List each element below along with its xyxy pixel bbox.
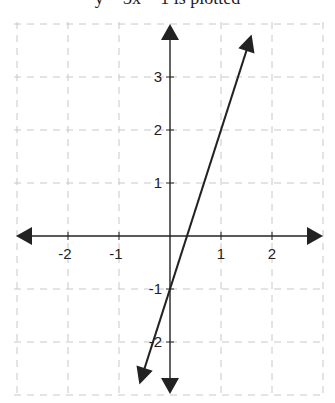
y-tick-label: 1: [154, 174, 162, 191]
line-down-arrow-icon: [136, 366, 152, 385]
y-tick-label: -1: [149, 280, 162, 297]
line-up-arrow-icon: [238, 35, 254, 54]
x-tick-label: 2: [268, 245, 276, 262]
axes: [16, 24, 323, 394]
x-axis-right-arrow-icon: [307, 227, 323, 245]
y-tick-label: 3: [154, 68, 162, 85]
x-tick-label: 1: [217, 245, 225, 262]
x-tick-label: -1: [109, 245, 122, 262]
line-graph: -2-112-2-1123: [0, 0, 335, 403]
line-y-equals-3x-minus-1: [144, 49, 247, 370]
y-tick-label: 2: [154, 121, 162, 138]
y-axis-down-arrow-icon: [161, 378, 179, 394]
axis-ticks: -2-112-2-1123: [58, 68, 276, 350]
x-axis-left-arrow-icon: [16, 227, 32, 245]
grid-lines: [14, 22, 323, 396]
plotted-line: [136, 35, 254, 385]
y-axis-up-arrow-icon: [161, 24, 179, 40]
x-tick-label: -2: [58, 245, 71, 262]
